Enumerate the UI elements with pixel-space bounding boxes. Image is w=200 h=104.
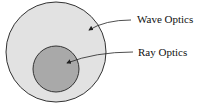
ray-optics-circle (33, 46, 79, 92)
wave-optics-label: Wave Optics (137, 13, 193, 25)
ray-optics-label: Ray Optics (138, 46, 187, 58)
